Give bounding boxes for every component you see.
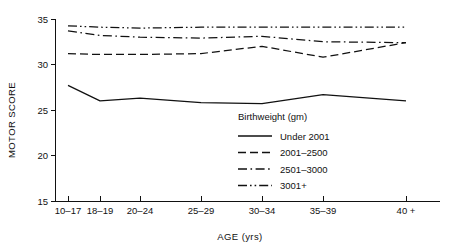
y-tick-label: 25 bbox=[37, 105, 48, 116]
x-tick-label: 35–39 bbox=[310, 205, 336, 216]
y-axis-title: MOTOR SCORE bbox=[6, 82, 17, 158]
x-tick-label: 20–24 bbox=[127, 205, 153, 216]
x-tick-label: 25–29 bbox=[188, 205, 214, 216]
x-tick-label: 10–17 bbox=[55, 205, 81, 216]
x-tick-label: 30–34 bbox=[249, 205, 275, 216]
legend-item-label: 3001+ bbox=[280, 180, 307, 191]
x-axis-title: AGE (yrs) bbox=[217, 231, 262, 242]
y-tick-label: 20 bbox=[37, 150, 48, 161]
legend-item-label: 2001–2500 bbox=[280, 147, 328, 158]
y-tick-label: 15 bbox=[37, 196, 48, 207]
chart-figure: 1520253035 10–1718–1920–2425–2930–3435–3… bbox=[0, 0, 452, 251]
x-tick-label: 40 + bbox=[397, 205, 416, 216]
legend-item-label: 2501–3000 bbox=[280, 164, 328, 175]
x-tick-label: 18–19 bbox=[87, 205, 113, 216]
y-tick-label: 30 bbox=[37, 59, 48, 70]
legend-item-label: Under 2001 bbox=[280, 131, 330, 142]
legend-title: Birthweight (gm) bbox=[238, 111, 307, 122]
y-tick-label: 35 bbox=[37, 14, 48, 25]
line-chart: 1520253035 10–1718–1920–2425–2930–3435–3… bbox=[0, 0, 452, 251]
